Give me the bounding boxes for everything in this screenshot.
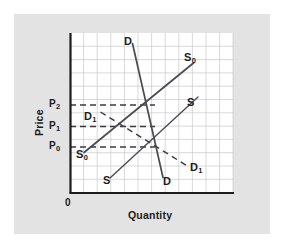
curve-label-demand-shift-right: D1: [190, 162, 202, 174]
y-tick-p2-base: P: [49, 98, 56, 109]
curve-label-d1-left-sub: 1: [92, 115, 96, 124]
curve-label-demand-shift-left: D1: [84, 111, 96, 123]
y-axis-title: Price: [34, 109, 45, 136]
curve-label-s0-bottom-sub: 0: [83, 153, 87, 162]
y-tick-p0: P0: [49, 141, 60, 152]
y-tick-p1-sub: 1: [56, 124, 60, 133]
curve-label-d1-left-base: D: [84, 110, 92, 122]
curve-label-supply-new-bottom: S: [103, 175, 111, 187]
x-axis-title: Quantity: [128, 210, 172, 221]
curve-label-demand-top: D: [124, 36, 132, 48]
curve-label-demand-bottom: D: [163, 176, 171, 188]
y-tick-p2: P2: [49, 99, 60, 110]
curve-label-d1-right-base: D: [190, 161, 198, 173]
y-tick-p0-base: P: [49, 140, 56, 151]
curve-label-demand-top-base: D: [124, 35, 132, 47]
figure-canvas: Price P2 P1 P0 0 Quantity D D D1 D1 S0 S…: [0, 0, 284, 248]
curve-label-s0-top-sub: 0: [191, 56, 195, 65]
curve-label-supply-original-bottom: S0: [76, 149, 88, 161]
curve-label-supply-original-top: S0: [184, 52, 196, 64]
curve-label-supply-new-top: S: [187, 97, 195, 109]
y-tick-p1: P1: [49, 121, 60, 132]
y-tick-p2-sub: 2: [56, 102, 60, 111]
origin-label: 0: [65, 198, 71, 208]
y-tick-p1-base: P: [49, 120, 56, 131]
curve-label-demand-bottom-base: D: [163, 175, 171, 187]
curve-label-d1-right-sub: 1: [198, 166, 202, 175]
y-tick-p0-sub: 0: [56, 144, 60, 153]
